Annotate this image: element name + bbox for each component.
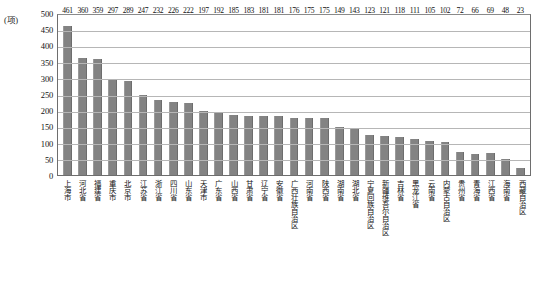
bar[interactable]: 48: [501, 159, 510, 175]
bar[interactable]: 359: [93, 59, 102, 175]
bar[interactable]: 247: [139, 95, 148, 175]
gridline: [58, 160, 530, 161]
bar[interactable]: 181: [259, 116, 268, 175]
x-axis-tick-label: 辽宁省: [260, 179, 268, 200]
x-axis-tick-label: 江西省: [487, 179, 495, 200]
gridline: [58, 96, 530, 97]
x-axis-tick-label: 甘肃省: [245, 179, 253, 200]
x-axis-tick-label: 黑龙江省: [411, 179, 419, 207]
bar-value-label: 247: [138, 7, 149, 15]
bar[interactable]: 118: [395, 137, 404, 175]
x-axis-tick: 四川省: [165, 179, 180, 291]
bar-value-label: 183: [243, 7, 254, 15]
x-axis-tick-label: 湖北省: [351, 179, 359, 200]
x-axis-tick: 甘肃省: [241, 179, 256, 291]
bar-value-label: 461: [62, 7, 73, 15]
x-axis-tick-label: 广西壮族自治区: [290, 179, 298, 228]
bar-value-label: 66: [472, 7, 479, 15]
y-axis-tick-label: 250: [41, 90, 53, 100]
bar[interactable]: 105: [425, 141, 434, 175]
bar-value-label: 185: [228, 7, 239, 15]
y-axis-tick-label: 0: [49, 171, 53, 181]
x-axis-tick-label: 江苏省: [139, 179, 147, 200]
x-axis-tick-label: 安徽省: [275, 179, 283, 200]
bar[interactable]: 360: [78, 58, 87, 175]
x-axis-tick: 海南省: [499, 179, 514, 291]
bar-value-label: 175: [304, 7, 315, 15]
x-axis-tick: 陕西省: [317, 179, 332, 291]
x-axis-tick-label: 上海市: [63, 179, 71, 200]
x-axis-tick: 青海省: [468, 179, 483, 291]
y-axis-unit-label: (项): [4, 13, 18, 25]
x-axis-tick-label: 贵州省: [457, 179, 465, 200]
bar[interactable]: 72: [456, 152, 465, 175]
bar-value-label: 175: [319, 7, 330, 15]
x-axis-tick-label: 四川省: [169, 179, 177, 200]
bar-value-label: 48: [502, 7, 509, 15]
bar-value-label: 102: [440, 7, 451, 15]
x-axis-tick-label: 福建省: [93, 179, 101, 200]
bar[interactable]: 183: [244, 116, 253, 175]
bar[interactable]: 181: [274, 116, 283, 175]
x-axis-tick: 福建省: [89, 179, 104, 291]
x-axis-tick-label: 湖南省: [336, 179, 344, 200]
x-axis-tick: 内蒙古自治区: [438, 179, 453, 291]
bar-value-label: 118: [395, 7, 405, 15]
bar-value-label: 222: [183, 7, 194, 15]
x-axis-tick: 江西省: [483, 179, 498, 291]
x-axis-tick: 河北省: [74, 179, 89, 291]
bar-value-label: 297: [108, 7, 119, 15]
bar[interactable]: 143: [350, 129, 359, 175]
bar[interactable]: 461: [63, 26, 72, 175]
bar[interactable]: 102: [441, 142, 450, 175]
x-axis-tick-label: 内蒙古自治区: [442, 179, 450, 221]
x-axis-tick-label: 海南省: [502, 179, 510, 200]
bar[interactable]: 176: [290, 118, 299, 175]
y-axis-tick-label: 200: [41, 106, 53, 116]
x-axis-tick: 江苏省: [135, 179, 150, 291]
x-axis-tick: 天津市: [195, 179, 210, 291]
x-axis-tick-label: 新疆维吾尔自治区: [381, 179, 389, 235]
gridline: [58, 31, 530, 32]
y-axis-tick-label: 50: [45, 155, 53, 165]
gridline: [58, 112, 530, 113]
y-axis: 500450400350300250200150100500: [27, 14, 53, 176]
x-axis-tick: 山东省: [180, 179, 195, 291]
y-axis-tick-label: 450: [41, 25, 53, 35]
x-axis-tick: 新疆维吾尔自治区: [377, 179, 392, 291]
x-axis-tick: 云南省: [423, 179, 438, 291]
chart-container: (项) 500450400350300250200150100500 46136…: [0, 0, 542, 295]
x-axis-tick-label: 宁夏回族自治区: [366, 179, 374, 228]
bar-value-label: 111: [410, 7, 420, 15]
x-axis-tick: 重庆市: [104, 179, 119, 291]
bar[interactable]: 175: [320, 118, 329, 175]
bar[interactable]: 149: [335, 127, 344, 175]
bar-value-label: 143: [349, 7, 360, 15]
bar[interactable]: 69: [486, 153, 495, 175]
x-axis-tick-label: 河南省: [305, 179, 313, 200]
gridline: [58, 128, 530, 129]
bar[interactable]: 175: [305, 118, 314, 175]
x-axis-tick-label: 山西省: [230, 179, 238, 200]
bar[interactable]: 226: [169, 102, 178, 175]
bar-value-label: 289: [123, 7, 134, 15]
bar-value-label: 23: [517, 7, 524, 15]
gridline: [58, 63, 530, 64]
bar[interactable]: 66: [471, 154, 480, 175]
bar-value-label: 181: [259, 7, 270, 15]
bar[interactable]: 222: [184, 103, 193, 175]
x-axis-tick-label: 天津市: [199, 179, 207, 200]
x-axis-tick-label: 吉林省: [396, 179, 404, 200]
x-axis-tick: 浙江省: [150, 179, 165, 291]
bar-value-label: 226: [168, 7, 179, 15]
x-axis-tick: 湖南省: [332, 179, 347, 291]
bar[interactable]: 121: [380, 136, 389, 175]
bar[interactable]: 197: [199, 111, 208, 175]
gridline: [58, 144, 530, 145]
bar-value-label: 181: [274, 7, 285, 15]
y-axis-tick-label: 350: [41, 58, 53, 68]
bar-value-label: 360: [77, 7, 88, 15]
bar[interactable]: 23: [516, 168, 525, 175]
x-axis-tick-label: 山东省: [184, 179, 192, 200]
bar[interactable]: 123: [365, 135, 374, 175]
